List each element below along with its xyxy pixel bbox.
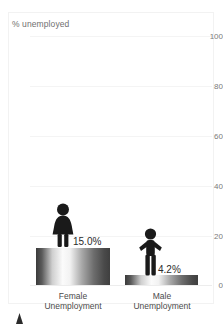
triangle-marker-icon [15, 313, 24, 325]
y-tick-label-60: 60 [197, 132, 223, 141]
bar-male-unemployment [125, 275, 198, 285]
y-tick-label-0: 0 [197, 281, 223, 290]
y-tick-label-20: 20 [197, 232, 223, 241]
category-label-male-line1: Male [116, 291, 208, 301]
y-tick-label-80: 80 [197, 82, 223, 91]
gridline-60 [30, 136, 212, 137]
value-label-male: 4.2% [158, 264, 181, 275]
y-tick-label-40: 40 [197, 182, 223, 191]
category-label-female-line1: Female [27, 291, 119, 301]
y-axis-title: % unemployed [12, 19, 69, 29]
category-label-male: Male Unemployment [116, 291, 208, 311]
y-tick-label-100: 100 [197, 32, 223, 41]
unemployment-bar-chart: % unemployed 100 80 60 40 20 0 15.0% 4.2… [0, 0, 223, 329]
gridline-100 [30, 36, 212, 37]
value-label-female: 15.0% [73, 236, 101, 247]
category-label-female-line2: Unemployment [27, 301, 119, 311]
category-label-female: Female Unemployment [27, 291, 119, 311]
bar-female-unemployment [36, 248, 110, 285]
category-label-male-line2: Unemployment [116, 301, 208, 311]
gridline-40 [30, 186, 212, 187]
gridline-80 [30, 86, 212, 87]
gridline-0 [30, 285, 212, 286]
